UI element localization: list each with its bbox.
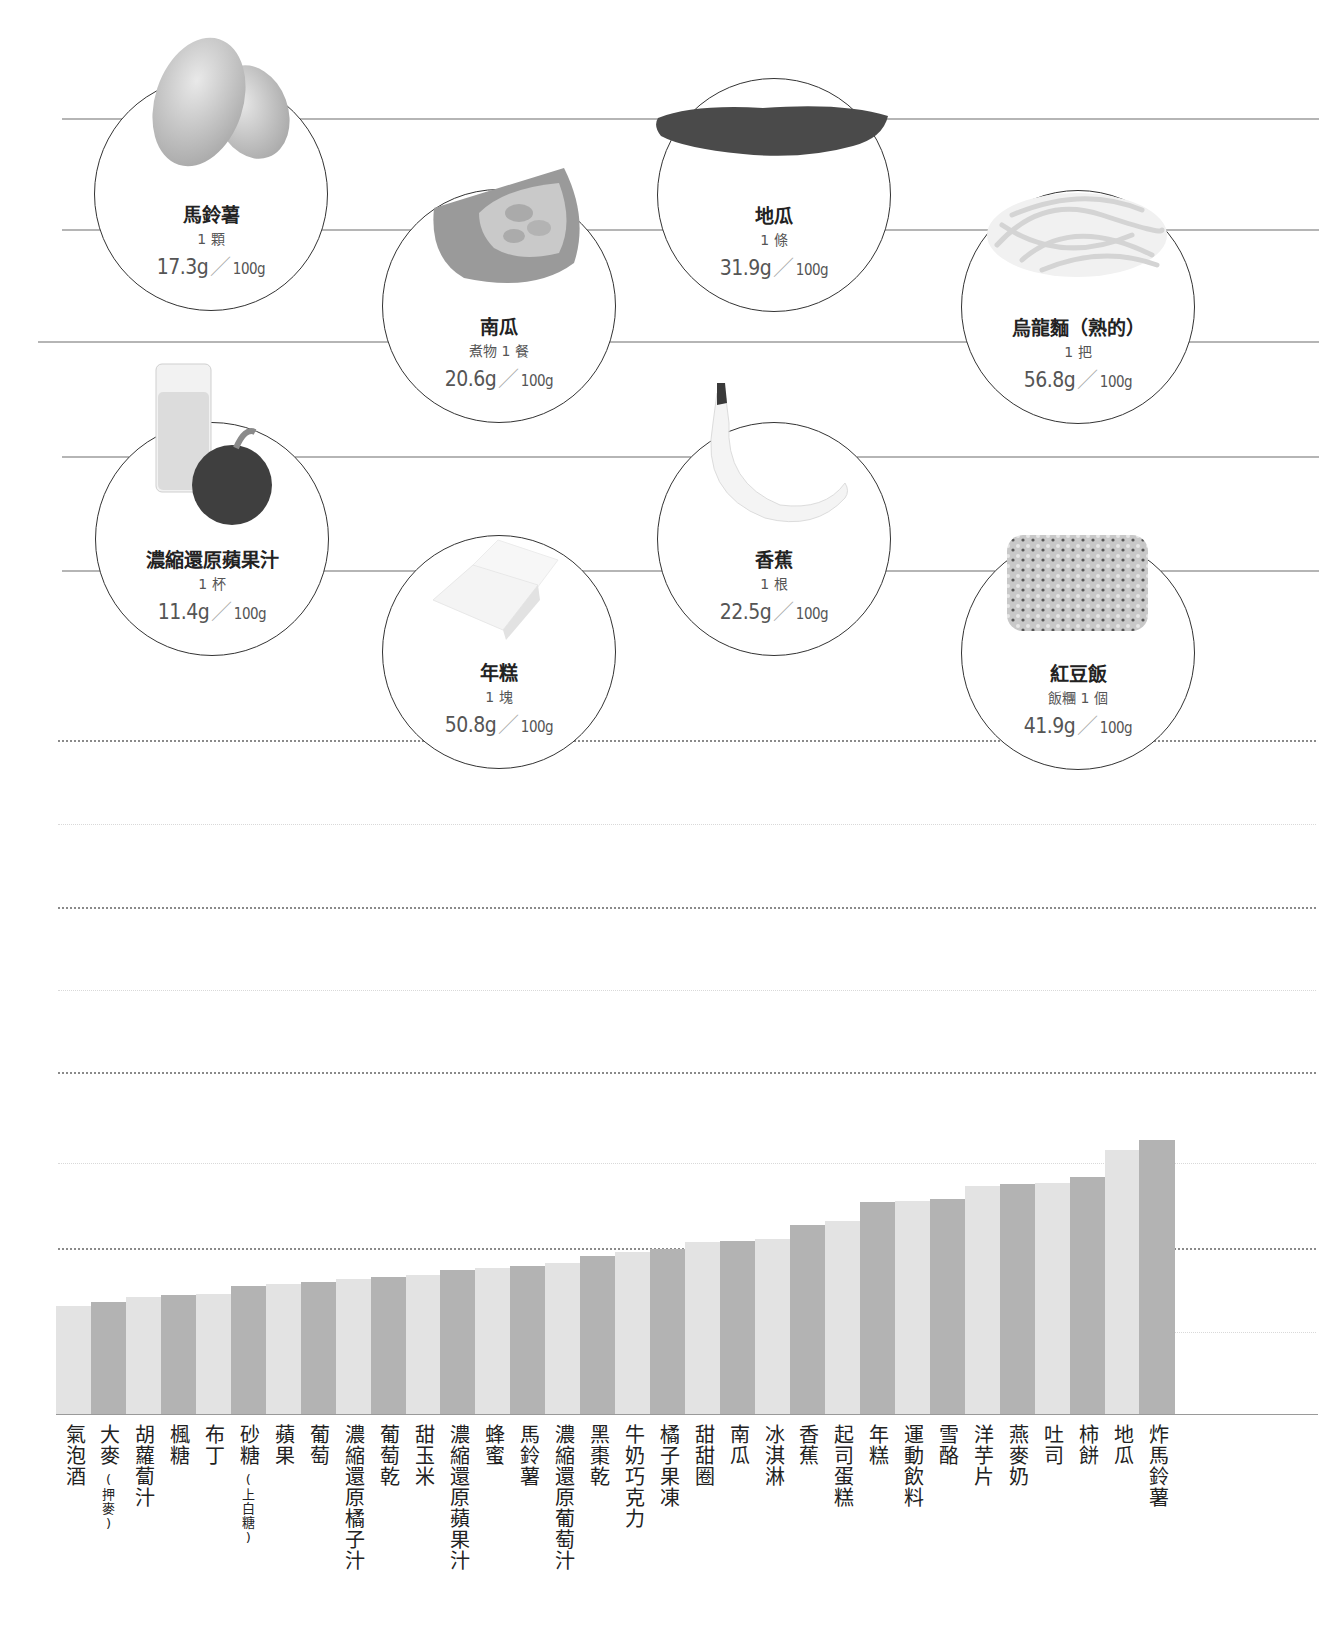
chart-bar <box>930 1199 965 1414</box>
chart-bar <box>371 1277 406 1414</box>
chart-baseline <box>56 1414 1318 1415</box>
x-axis-label: 黑棗乾 <box>580 1424 615 1487</box>
chart-bar <box>56 1306 91 1414</box>
x-axis-label: 燕麥奶 <box>1000 1424 1035 1487</box>
x-axis-label: 大麥(押麥) <box>91 1424 126 1532</box>
x-axis-label: 牛奶巧克力 <box>615 1424 650 1529</box>
chart-bar <box>965 1186 1000 1414</box>
x-axis-label: 胡蘿蔔汁 <box>126 1424 161 1508</box>
food-carb-value: 31.9g／100g <box>658 251 890 281</box>
x-axis-label: 甜甜圈 <box>685 1424 720 1487</box>
food-carb-value: 50.8g／100g <box>383 708 615 738</box>
chart-bar <box>196 1294 231 1414</box>
chart-bar <box>91 1302 126 1414</box>
food-name: 烏龍麵（熟的） <box>962 313 1194 340</box>
food-carb-value: 17.3g／100g <box>95 250 327 280</box>
chart-bar <box>685 1242 720 1414</box>
food-name: 紅豆飯 <box>962 659 1194 686</box>
food-name: 濃縮還原蘋果汁 <box>96 545 328 572</box>
chart-bar <box>580 1256 615 1414</box>
chart-bar <box>860 1202 895 1414</box>
banana-image <box>695 383 855 533</box>
potato-image <box>134 22 294 177</box>
chart-bar <box>1070 1177 1105 1414</box>
food-carb-value: 20.6g／100g <box>383 362 615 392</box>
x-axis-label: 年糕 <box>860 1424 895 1466</box>
chart-gridline <box>58 1072 1316 1074</box>
x-axis-label: 濃縮還原蘋果汁 <box>440 1424 475 1571</box>
chart-bar <box>755 1239 790 1414</box>
x-axis-label: 雪酪 <box>930 1424 965 1466</box>
x-axis-label: 香蕉 <box>790 1424 825 1466</box>
x-axis-label: 砂糖(上白糖) <box>231 1424 266 1546</box>
chart-bar <box>440 1270 475 1414</box>
chart-bar <box>336 1279 371 1414</box>
x-axis-label: 氣泡酒 <box>56 1424 91 1487</box>
x-axis-label: 布丁 <box>196 1424 231 1466</box>
food-carb-value: 11.4g／100g <box>96 595 328 625</box>
x-axis-label: 葡萄乾 <box>371 1424 406 1487</box>
chart-bar <box>545 1263 580 1414</box>
chart-bar <box>1000 1184 1035 1414</box>
x-axis-label: 濃縮還原葡萄汁 <box>545 1424 580 1571</box>
red-bean-rice-image <box>1005 533 1150 633</box>
chart-bar <box>475 1268 510 1414</box>
x-axis-label: 冰淇淋 <box>755 1424 790 1487</box>
x-axis-label: 楓糖 <box>161 1424 196 1466</box>
x-axis-label: 運動飲料 <box>895 1424 930 1508</box>
x-axis-label: 橘子果凍 <box>650 1424 685 1508</box>
x-axis-label: 南瓜 <box>720 1424 755 1466</box>
food-name: 香蕉 <box>658 545 890 572</box>
chart-bar <box>406 1275 441 1414</box>
sweet-potato-image <box>653 98 893 162</box>
chart-bar <box>126 1297 161 1414</box>
apple-juice-image <box>150 362 280 532</box>
food-portion: 1 條 <box>658 229 890 249</box>
x-axis-label: 馬鈴薯 <box>510 1424 545 1487</box>
x-axis-label: 洋芋片 <box>965 1424 1000 1487</box>
x-axis-label: 蘋果 <box>266 1424 301 1466</box>
food-name: 南瓜 <box>383 312 615 339</box>
food-portion: 煮物 1 餐 <box>383 340 615 360</box>
food-name: 地瓜 <box>658 201 890 228</box>
x-axis-label: 柿餅 <box>1070 1424 1105 1466</box>
x-axis-label: 炸馬鈴薯 <box>1139 1424 1174 1508</box>
chart-bar <box>161 1295 196 1414</box>
food-portion: 1 顆 <box>95 228 327 248</box>
x-axis-label: 蜂蜜 <box>475 1424 510 1466</box>
udon-noodles-image <box>982 175 1172 280</box>
food-name: 年糕 <box>383 658 615 685</box>
food-portion: 飯糰 1 個 <box>962 687 1194 707</box>
chart-bar <box>1105 1150 1140 1414</box>
food-carb-value: 22.5g／100g <box>658 595 890 625</box>
chart-bar <box>720 1241 755 1414</box>
chart-bar <box>895 1201 930 1414</box>
x-axis-label: 起司蛋糕 <box>825 1424 860 1508</box>
chart-gridline <box>58 1332 1316 1333</box>
food-portion: 1 把 <box>962 341 1194 361</box>
chart-gridline <box>58 1248 1316 1250</box>
chart-gridline <box>58 990 1316 991</box>
x-axis-label: 甜玉米 <box>406 1424 441 1487</box>
food-portion: 1 塊 <box>383 686 615 706</box>
chart-bar <box>1139 1140 1174 1414</box>
x-axis-label: 濃縮還原橘子汁 <box>336 1424 371 1571</box>
chart-gridline <box>58 824 1316 825</box>
x-axis-label: 地瓜 <box>1105 1424 1140 1466</box>
food-name: 馬鈴薯 <box>95 200 327 227</box>
rice-cake-image <box>428 520 568 640</box>
chart-bar <box>1035 1183 1070 1414</box>
x-axis-label: 葡萄 <box>301 1424 336 1466</box>
chart-bar <box>266 1284 301 1414</box>
chart-bar <box>231 1286 266 1414</box>
chart-gridline <box>58 1163 1316 1164</box>
pumpkin-image <box>424 168 589 293</box>
chart-gridline <box>58 907 1316 909</box>
food-portion: 1 根 <box>658 573 890 593</box>
food-carb-value: 41.9g／100g <box>962 709 1194 739</box>
food-portion: 1 杯 <box>96 573 328 593</box>
food-carb-value: 56.8g／100g <box>962 363 1194 393</box>
chart-bar <box>790 1225 825 1414</box>
chart-bar <box>301 1282 336 1414</box>
x-axis-label: 吐司 <box>1035 1424 1070 1466</box>
